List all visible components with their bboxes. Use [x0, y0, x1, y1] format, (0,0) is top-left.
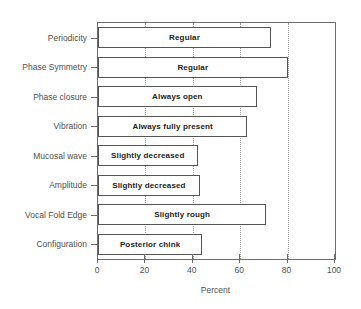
bar-row: Regular — [98, 53, 335, 83]
x-axis-tick-100 — [334, 258, 335, 263]
y-axis-category-label: Phase closure — [33, 92, 87, 102]
x-axis-tick-20 — [144, 258, 145, 263]
x-axis-title: Percent — [97, 285, 334, 295]
bar-value-label: Always fully present — [98, 116, 247, 137]
y-axis-category-3: Vibration — [0, 112, 97, 142]
bar-row: Slightly decreased — [98, 141, 335, 171]
x-axis-tick-40 — [192, 258, 193, 263]
x-axis-tick-label: 40 — [187, 265, 196, 275]
x-axis-tick-inner-0 — [97, 254, 98, 258]
x-axis-tick-labels: 020406080100 — [97, 265, 334, 279]
x-axis-tick-inner-20 — [144, 254, 145, 258]
x-axis-tick-label: 20 — [140, 265, 149, 275]
y-axis-labels: PeriodicityPhase SymmetryPhase closureVi… — [0, 23, 97, 259]
x-axis-tick-label: 0 — [95, 265, 100, 275]
bar-value-label: Regular — [98, 27, 271, 48]
y-axis-category-label: Phase Symmetry — [22, 62, 87, 72]
bar-value-label: Slightly decreased — [98, 145, 198, 166]
x-axis-tick-label: 60 — [234, 265, 243, 275]
bar-value-label: Slightly rough — [98, 204, 266, 225]
x-axis-tick-inner-60 — [239, 254, 240, 258]
horizontal-bar-chart: PeriodicityPhase SymmetryPhase closureVi… — [0, 0, 361, 309]
y-axis-category-0: Periodicity — [0, 23, 97, 53]
y-axis-category-label: Mucosal wave — [33, 151, 87, 161]
y-axis-category-2: Phase closure — [0, 82, 97, 112]
x-axis-tick-80 — [287, 258, 288, 263]
y-axis-category-label: Amplitude — [49, 180, 87, 190]
y-axis-category-5: Amplitude — [0, 171, 97, 201]
x-axis-tick-0 — [97, 258, 98, 263]
y-axis-category-label: Vocal Fold Edge — [25, 210, 87, 220]
bar-value-label: Slightly decreased — [98, 175, 200, 196]
bars-container: RegularRegularAlways openAlways fully pr… — [98, 23, 335, 259]
y-axis-category-6: Vocal Fold Edge — [0, 200, 97, 230]
x-axis-tick-label: 80 — [282, 265, 291, 275]
x-axis-tick-inner-80 — [287, 254, 288, 258]
bar-row: Slightly rough — [98, 200, 335, 230]
x-axis-ticks — [97, 258, 334, 264]
y-axis-category-label: Configuration — [36, 239, 87, 249]
y-axis-category-1: Phase Symmetry — [0, 53, 97, 83]
bar-value-label: Always open — [98, 86, 257, 107]
x-axis-tick-60 — [239, 258, 240, 263]
bar-row: Slightly decreased — [98, 171, 335, 201]
y-axis-category-label: Periodicity — [48, 33, 87, 43]
bar-row: Always fully present — [98, 112, 335, 142]
y-axis-category-7: Configuration — [0, 230, 97, 260]
x-axis-tick-inner-40 — [192, 254, 193, 258]
y-axis-category-4: Mucosal wave — [0, 141, 97, 171]
bar-value-label: Posterior chink — [98, 234, 202, 255]
bar-value-label: Regular — [98, 57, 288, 78]
bar-row: Posterior chink — [98, 230, 335, 260]
x-axis-tick-inner-100 — [334, 254, 335, 258]
bar-row: Always open — [98, 82, 335, 112]
bar-row: Regular — [98, 23, 335, 53]
y-axis-category-label: Vibration — [54, 121, 87, 131]
x-axis-tick-label: 100 — [327, 265, 341, 275]
